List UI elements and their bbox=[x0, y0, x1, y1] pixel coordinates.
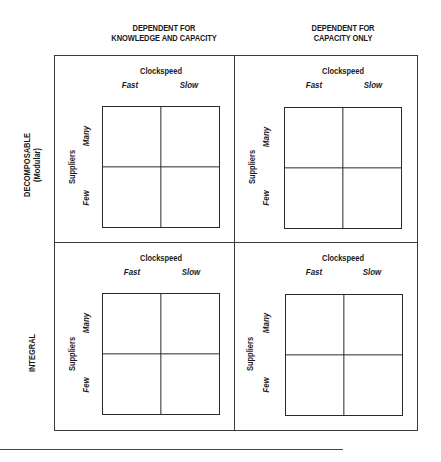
supplier-clockspeed-grid bbox=[102, 293, 220, 415]
suppliers-label: Suppliers bbox=[245, 337, 255, 371]
few-label: Few bbox=[81, 190, 91, 205]
column-header-line1: DEPENDENT FOR bbox=[102, 23, 225, 33]
footer-rule bbox=[0, 449, 343, 450]
column-header-capacity-only: DEPENDENT FOR CAPACITY ONLY bbox=[290, 23, 396, 43]
many-label: Many bbox=[81, 126, 91, 146]
column-header-line2: CAPACITY ONLY bbox=[290, 33, 396, 43]
grid-horizontal-line bbox=[103, 353, 219, 354]
slow-label: Slow bbox=[364, 80, 382, 90]
fast-label: Fast bbox=[122, 80, 138, 90]
grid-horizontal-line bbox=[285, 167, 401, 168]
few-label: Few bbox=[261, 377, 271, 392]
row-header-line1: DECOMPOSABLE bbox=[22, 133, 32, 197]
grid-horizontal-line bbox=[286, 354, 402, 355]
supplier-clockspeed-grid bbox=[284, 107, 402, 229]
few-label: Few bbox=[81, 377, 91, 392]
many-label: Many bbox=[261, 313, 271, 333]
many-label: Many bbox=[81, 313, 91, 333]
grid-horizontal-line bbox=[103, 166, 219, 167]
clockspeed-label: Clockspeed bbox=[140, 253, 182, 263]
row-header-decomposable: DECOMPOSABLE (Modular) bbox=[22, 133, 42, 197]
suppliers-label: Suppliers bbox=[247, 150, 257, 184]
few-label: Few bbox=[261, 190, 271, 205]
column-header-knowledge-and-capacity: DEPENDENT FOR KNOWLEDGE AND CAPACITY bbox=[102, 23, 225, 43]
slow-label: Slow bbox=[180, 80, 198, 90]
column-header-line2: KNOWLEDGE AND CAPACITY bbox=[102, 33, 225, 43]
slow-label: Slow bbox=[182, 267, 200, 277]
clockspeed-label: Clockspeed bbox=[140, 66, 182, 76]
suppliers-label: Suppliers bbox=[67, 337, 77, 371]
suppliers-label: Suppliers bbox=[67, 150, 77, 184]
row-header-integral: INTEGRAL bbox=[27, 334, 37, 372]
row-header-line2: (Modular) bbox=[32, 133, 42, 197]
many-label: Many bbox=[261, 127, 271, 147]
clockspeed-label: Clockspeed bbox=[322, 66, 364, 76]
fast-label: Fast bbox=[306, 80, 322, 90]
supplier-clockspeed-grid bbox=[102, 106, 220, 228]
slow-label: Slow bbox=[363, 267, 381, 277]
column-header-line1: DEPENDENT FOR bbox=[290, 23, 396, 33]
outer-horizontal-divider bbox=[54, 242, 418, 243]
fast-label: Fast bbox=[124, 267, 140, 277]
fast-label: Fast bbox=[306, 267, 322, 277]
clockspeed-label: Clockspeed bbox=[322, 253, 364, 263]
row-header-line1: INTEGRAL bbox=[27, 334, 37, 372]
supplier-clockspeed-grid bbox=[285, 294, 403, 416]
